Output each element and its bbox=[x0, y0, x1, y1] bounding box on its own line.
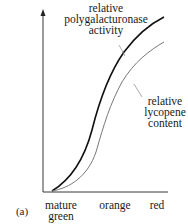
leader-line-lycopene bbox=[134, 84, 142, 97]
panel-label: (a) bbox=[10, 206, 34, 217]
x-tick-orange: orange bbox=[96, 200, 134, 211]
label-polygalacturonase: relative polygalacturonase activity bbox=[64, 3, 148, 36]
tick-line: red bbox=[146, 200, 168, 211]
label-line: content bbox=[142, 118, 188, 129]
tick-line: orange bbox=[96, 200, 134, 211]
label-line: activity bbox=[64, 25, 148, 36]
y-axis-arrow-icon bbox=[41, 9, 46, 16]
label-lycopene: relative lycopene content bbox=[142, 96, 188, 129]
tick-line: green bbox=[43, 211, 79, 222]
x-tick-red: red bbox=[146, 200, 168, 211]
x-tick-mature-green: mature green bbox=[43, 200, 79, 222]
